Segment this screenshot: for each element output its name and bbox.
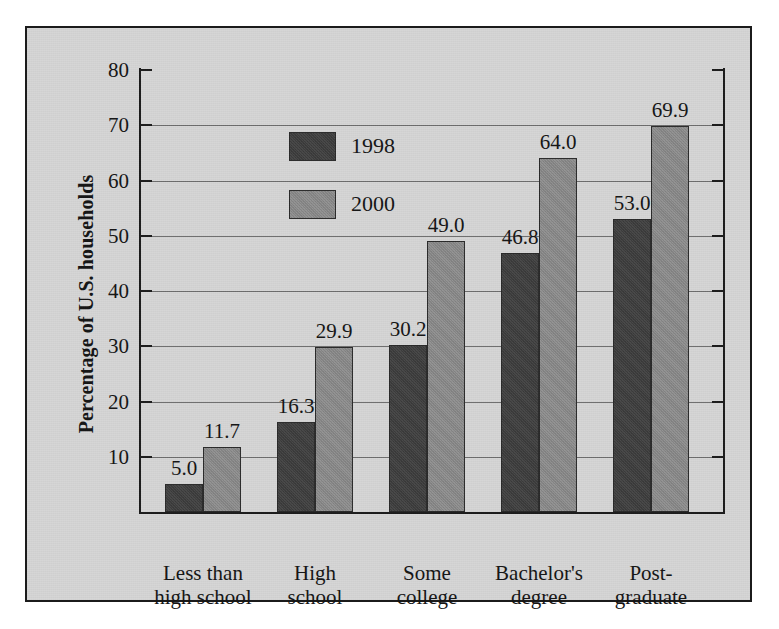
y-tick-mark-right xyxy=(712,235,723,237)
bar xyxy=(613,219,651,512)
bar-value-label: 46.8 xyxy=(486,227,554,248)
legend-label: 2000 xyxy=(351,190,395,218)
figure-canvas: Percentage of U.S. households 1020304050… xyxy=(0,0,779,629)
y-tick-label: 10 xyxy=(89,447,129,468)
y-tick-mark-right xyxy=(712,124,723,126)
bar-value-label: 5.0 xyxy=(150,458,218,479)
y-tick-mark-right xyxy=(712,401,723,403)
y-tick-label: 50 xyxy=(89,226,129,247)
bar-value-label: 53.0 xyxy=(598,193,666,214)
bar xyxy=(315,347,353,512)
legend-color-swatch xyxy=(289,132,336,161)
y-tick-mark-right xyxy=(712,69,723,71)
y-tick-label: 30 xyxy=(89,336,129,357)
y-tick-label: 40 xyxy=(89,281,129,302)
y-tick-label: 60 xyxy=(89,171,129,192)
y-tick-mark xyxy=(141,345,152,347)
y-tick-mark-right xyxy=(712,180,723,182)
bar xyxy=(427,241,465,512)
y-tick-mark xyxy=(141,69,152,71)
y-tick-mark xyxy=(141,401,152,403)
bar xyxy=(389,345,427,512)
bar-value-label: 69.9 xyxy=(636,100,704,121)
x-axis-line xyxy=(139,512,725,514)
y-tick-mark-right xyxy=(712,290,723,292)
chart-panel: Percentage of U.S. households 1020304050… xyxy=(25,26,752,602)
bar xyxy=(277,422,315,512)
legend-color-swatch xyxy=(289,190,336,219)
y-tick-mark-right xyxy=(712,456,723,458)
chart-legend: 19982000 xyxy=(289,128,489,238)
plot-area: 5.011.716.329.930.249.046.864.053.069.9 … xyxy=(139,68,725,514)
bar xyxy=(539,158,577,512)
y-tick-mark xyxy=(141,235,152,237)
bar-value-label: 30.2 xyxy=(374,319,442,340)
bar-value-label: 29.9 xyxy=(300,321,368,342)
legend-label: 1998 xyxy=(351,132,395,160)
y-tick-mark xyxy=(141,124,152,126)
bar xyxy=(501,253,539,512)
bar xyxy=(651,126,689,512)
bar-value-label: 16.3 xyxy=(262,396,330,417)
y-tick-mark xyxy=(141,290,152,292)
x-category-label: Post- graduate xyxy=(576,562,726,609)
bar-value-label: 11.7 xyxy=(188,421,256,442)
y-tick-mark-right xyxy=(712,345,723,347)
bar xyxy=(203,447,241,512)
y-tick-mark xyxy=(141,180,152,182)
y-tick-label: 20 xyxy=(89,392,129,413)
y-tick-label: 70 xyxy=(89,115,129,136)
gridline xyxy=(141,125,723,126)
bar-value-label: 64.0 xyxy=(524,132,592,153)
y-tick-label: 80 xyxy=(89,60,129,81)
y-axis-tick-labels: 1020304050607080 xyxy=(81,68,129,514)
bar xyxy=(165,484,203,512)
y-axis-right-line xyxy=(723,68,725,514)
